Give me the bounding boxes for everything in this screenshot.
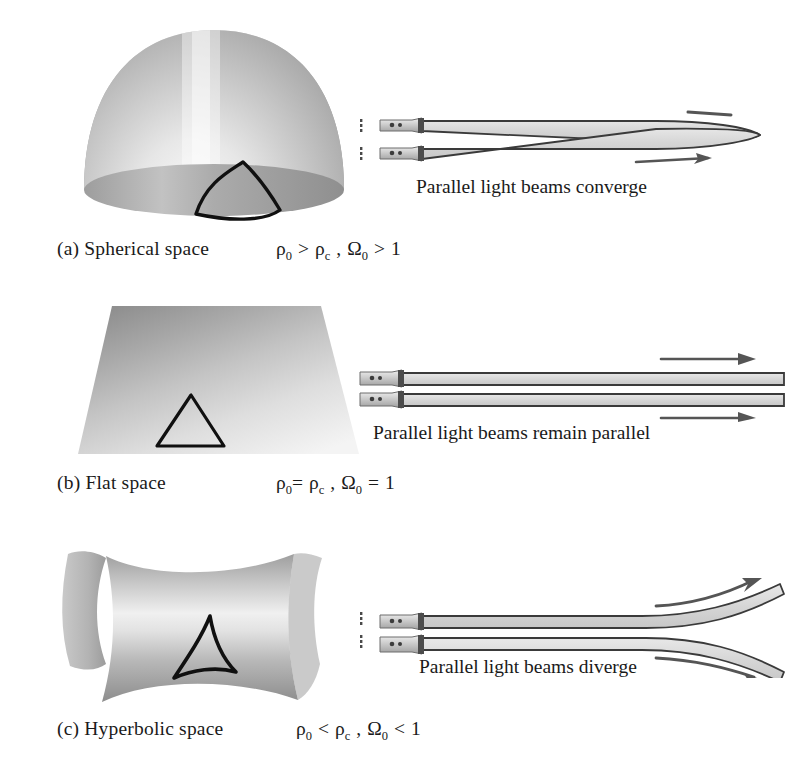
formula-flat: ρ0=ρc,Ω0=1	[276, 472, 395, 498]
density-subscript: 0	[286, 249, 292, 263]
flashlight-emitter	[380, 613, 424, 630]
critical-subscript: c	[325, 249, 331, 263]
hyperbolic-surface	[40, 532, 362, 717]
plane-shape	[76, 296, 361, 464]
density-comparator: =	[292, 472, 303, 493]
panel-flat: Parallel light beams remain parallel (b)…	[0, 280, 795, 530]
panel-label-hyperbolic: (c) Hyperbolic space	[57, 718, 223, 740]
saddle-shape	[40, 532, 362, 717]
panel-hyperbolic: Parallel light beams diverge (c) Hyperbo…	[0, 530, 795, 770]
omega-value: 1	[385, 472, 395, 493]
beam-diagram-converge	[356, 108, 786, 178]
flashlight-emitter	[380, 635, 424, 654]
density-symbol: ρ	[276, 472, 286, 493]
omega-value: 1	[391, 238, 401, 259]
critical-subscript: c	[319, 483, 325, 497]
critical-symbol: ρ	[335, 718, 345, 739]
density-symbol: ρ	[296, 718, 306, 739]
dome-shape	[78, 22, 350, 222]
omega-subscript: 0	[382, 729, 388, 743]
beam-direction-arrow	[661, 412, 756, 422]
converging-beams	[356, 108, 786, 178]
omega-subscript: 0	[362, 249, 368, 263]
formula-spherical: ρ0>ρc,Ω0>1	[276, 238, 401, 264]
flashlight-emitter	[380, 146, 424, 161]
emitter-tick-marks	[360, 119, 362, 160]
critical-symbol: ρ	[315, 238, 325, 259]
beam-direction-dash	[688, 112, 731, 115]
panel-spherical: Parallel light beams converge (a) Spheri…	[0, 0, 795, 280]
critical-subscript: c	[345, 729, 351, 743]
beam-diagram-parallel	[356, 342, 786, 422]
beam-caption-parallel: Parallel light beams remain parallel	[373, 422, 650, 444]
density-comparator: >	[298, 238, 309, 259]
flashlight-emitter	[360, 391, 404, 408]
critical-symbol: ρ	[309, 472, 319, 493]
emitter-tick-marks	[360, 612, 362, 648]
flat-surface	[76, 296, 361, 464]
density-subscript: 0	[306, 729, 312, 743]
beam-direction-arrow	[636, 153, 712, 164]
formula-hyperbolic: ρ0<ρc,Ω0<1	[296, 718, 421, 744]
density-comparator: <	[318, 718, 329, 739]
flashlight-emitter	[360, 370, 404, 387]
omega-subscript: 0	[356, 483, 362, 497]
omega-symbol: Ω	[347, 238, 362, 259]
beam-caption-diverge: Parallel light beams diverge	[419, 656, 637, 678]
density-symbol: ρ	[276, 238, 286, 259]
beam-caption-converge: Parallel light beams converge	[416, 176, 647, 198]
omega-comparator: >	[374, 238, 385, 259]
spherical-surface	[78, 22, 350, 222]
beam-direction-arrow	[661, 353, 756, 365]
omega-comparator: <	[394, 718, 405, 739]
panel-label-spherical: (a) Spherical space	[57, 238, 209, 260]
omega-symbol: Ω	[341, 472, 356, 493]
flashlight-emitter	[380, 118, 424, 133]
parallel-beams	[356, 342, 786, 422]
omega-comparator: =	[368, 472, 379, 493]
panel-label-flat: (b) Flat space	[57, 472, 166, 494]
omega-value: 1	[411, 718, 421, 739]
omega-symbol: Ω	[367, 718, 382, 739]
